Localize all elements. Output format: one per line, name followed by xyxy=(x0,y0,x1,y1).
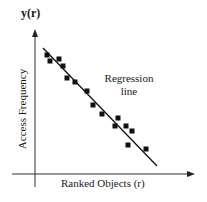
annotation-line-1: Regression xyxy=(103,72,155,85)
annotation-line-2: line xyxy=(103,85,155,98)
data-point-marker xyxy=(45,53,50,58)
data-point-marker xyxy=(73,80,78,85)
data-points xyxy=(45,53,149,152)
data-point-marker xyxy=(100,112,105,117)
data-point-marker xyxy=(48,59,53,64)
data-point-marker xyxy=(116,116,121,121)
data-point-marker xyxy=(130,129,135,134)
y-axis-label: Access Frequency xyxy=(16,69,28,149)
regression-line xyxy=(43,48,157,166)
data-point-marker xyxy=(124,124,129,129)
data-point-marker xyxy=(65,76,70,81)
x-axis-label: Ranked Objects (r) xyxy=(61,177,145,189)
data-point-marker xyxy=(126,143,131,148)
chart-canvas xyxy=(0,0,207,202)
data-point-marker xyxy=(57,57,62,62)
x-axis-arrow-icon xyxy=(187,171,195,177)
data-point-marker xyxy=(91,103,96,108)
y-axis-symbol: y(r) xyxy=(21,6,40,21)
data-point-marker xyxy=(61,64,66,69)
regression-annotation: Regression line xyxy=(103,72,155,98)
y-axis-arrow-icon xyxy=(32,29,38,37)
data-point-marker xyxy=(113,124,118,129)
data-point-marker xyxy=(144,147,149,152)
data-point-marker xyxy=(85,89,90,94)
